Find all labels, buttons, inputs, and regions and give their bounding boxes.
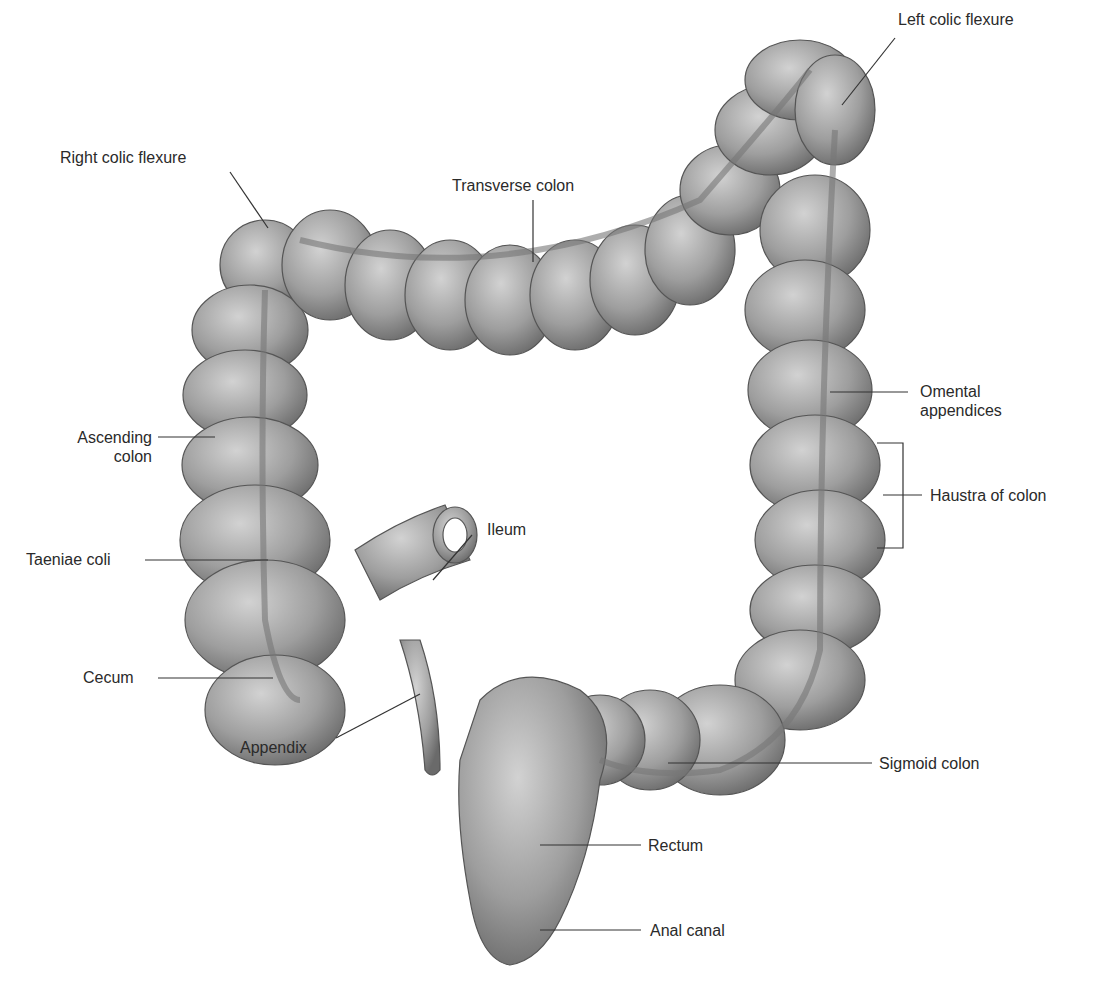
- label-ileum: Ileum: [487, 520, 526, 539]
- label-right-colic-flexure: Right colic flexure: [60, 148, 186, 167]
- label-cecum: Cecum: [83, 668, 134, 687]
- label-haustra-of-colon: Haustra of colon: [930, 486, 1047, 505]
- label-omental-line2: appendices: [920, 401, 1002, 420]
- diagram-canvas: Left colic flexure Right colic flexure T…: [0, 0, 1107, 984]
- label-sigmoid-colon: Sigmoid colon: [879, 754, 980, 773]
- label-transverse-colon: Transverse colon: [452, 176, 574, 195]
- label-ascending-line2: colon: [40, 447, 152, 466]
- label-appendix: Appendix: [240, 738, 307, 757]
- label-ascending-colon: Ascending colon: [40, 428, 152, 466]
- label-rectum: Rectum: [648, 836, 703, 855]
- label-taeniae-coli: Taeniae coli: [26, 550, 111, 569]
- label-left-colic-flexure: Left colic flexure: [898, 10, 1014, 29]
- label-anal-canal: Anal canal: [650, 921, 725, 940]
- label-omental-line1: Omental: [920, 382, 1002, 401]
- label-ascending-line1: Ascending: [40, 428, 152, 447]
- label-omental-appendices: Omental appendices: [920, 382, 1002, 420]
